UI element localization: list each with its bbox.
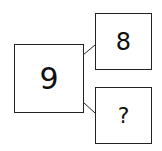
part-box-top: 8 (95, 13, 152, 70)
part-box-bottom: ? (95, 87, 152, 144)
whole-value: 9 (39, 61, 58, 96)
part-bottom-value: ? (118, 103, 130, 128)
connector-top (83, 45, 95, 55)
whole-number-box: 9 (14, 44, 84, 113)
connector-bottom (83, 102, 95, 113)
part-top-value: 8 (116, 28, 131, 56)
